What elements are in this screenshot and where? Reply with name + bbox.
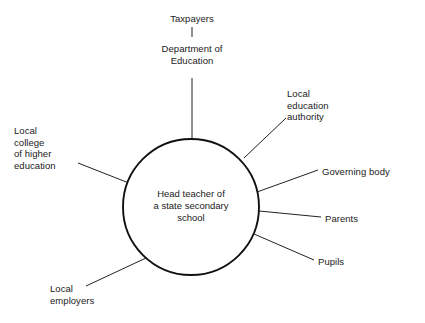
node-label-local-college-of-higher-education: Local college of higher education [14,125,86,171]
node-label-local-employers: Local employers [50,283,122,306]
node-label-local-education-authority: Local education authority [287,88,365,123]
node-label-parents: Parents [325,213,385,225]
node-label-department-of-education: Department of Education [142,43,242,66]
node-label-pupils: Pupils [318,256,374,268]
stakeholder-diagram: TaxpayersDepartment of EducationLocal ed… [0,0,425,323]
connector-pupils-to-hub [254,234,314,260]
node-label-taxpayers: Taxpayers [155,13,229,25]
connector-college-to-hub [78,163,134,185]
hub-label: Head teacher of a state secondary school [123,188,259,224]
node-label-governing-body: Governing body [322,166,420,178]
connector-lea-to-hub [244,118,286,158]
connector-governing-body-to-hub [257,170,318,192]
connector-employers-to-hub [86,258,146,286]
connector-parents-to-hub [259,211,321,217]
